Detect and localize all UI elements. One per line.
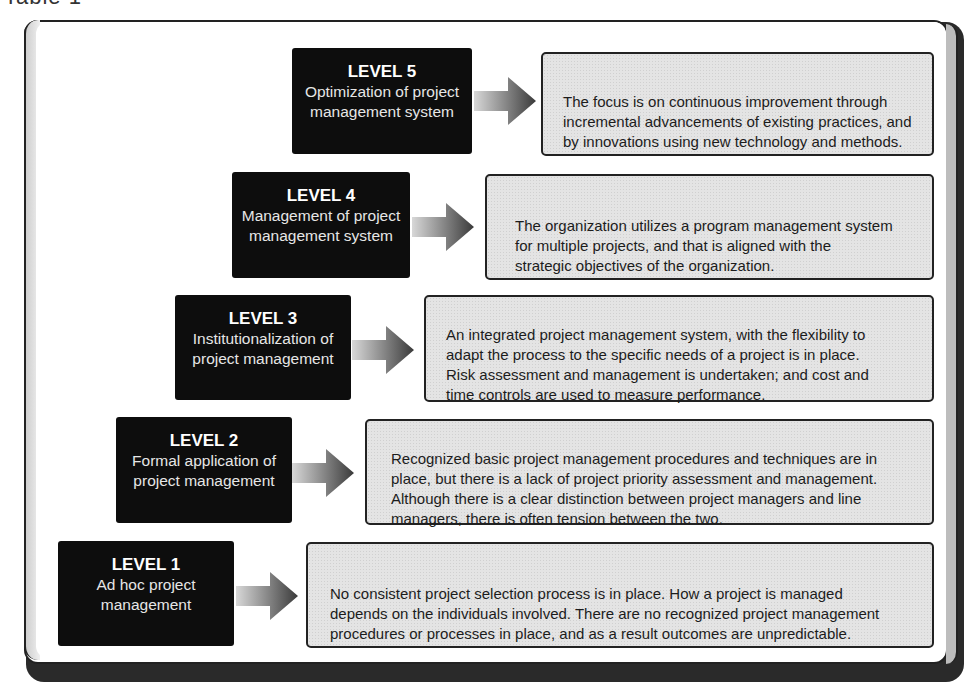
level-3-description-box: An integrated project management system,…: [424, 295, 934, 402]
level-5-description-box: The focus is on continuous improvement t…: [541, 52, 934, 156]
level-1-title: LEVEL 1: [58, 555, 234, 575]
figure-caption: Table 1: [4, 0, 82, 10]
level-5-box: LEVEL 5 Optimization of project manageme…: [292, 48, 472, 154]
level-3-description: An integrated project management system,…: [446, 326, 869, 403]
level-4-description: The organization utilizes a program mana…: [515, 217, 893, 274]
level-3-subtitle: Institutionalization of project manageme…: [175, 329, 351, 369]
level-1-subtitle: Ad hoc project management: [58, 575, 234, 615]
arrow-right-icon: [474, 77, 542, 125]
level-2-box: LEVEL 2 Formal application of project ma…: [116, 417, 292, 523]
level-3-title: LEVEL 3: [175, 309, 351, 329]
level-4-box: LEVEL 4 Management of project management…: [232, 172, 410, 278]
level-1-box: LEVEL 1 Ad hoc project management: [58, 541, 234, 646]
level-2-title: LEVEL 2: [116, 431, 292, 451]
arrow-right-icon: [352, 326, 420, 374]
frame-bevel-right: [946, 24, 958, 664]
level-5-title: LEVEL 5: [292, 62, 472, 82]
level-4-subtitle: Management of project management system: [232, 206, 410, 246]
arrow-right-icon: [236, 572, 304, 620]
level-4-title: LEVEL 4: [232, 186, 410, 206]
arrow-right-icon: [292, 449, 360, 497]
level-4-description-box: The organization utilizes a program mana…: [485, 174, 934, 280]
level-3-box: LEVEL 3 Institutionalization of project …: [175, 295, 351, 400]
level-1-description: No consistent project selection process …: [330, 585, 879, 642]
arrow-right-icon: [412, 203, 480, 251]
level-2-description-box: Recognized basic project management proc…: [365, 419, 934, 525]
level-2-subtitle: Formal application of project management: [116, 451, 292, 491]
level-5-description: The focus is on continuous improvement t…: [563, 93, 912, 150]
level-5-subtitle: Optimization of project management syste…: [292, 82, 472, 122]
level-2-description: Recognized basic project management proc…: [391, 450, 877, 527]
level-1-description-box: No consistent project selection process …: [306, 542, 934, 648]
